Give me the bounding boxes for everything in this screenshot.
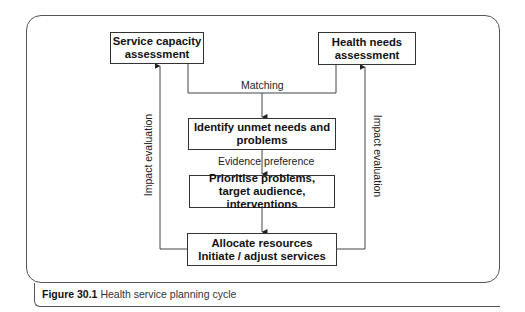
service-capacity-box: Service capacity assessment	[110, 32, 204, 64]
impact-evaluation-left-label: Impact evaluation	[142, 113, 154, 197]
allocate-line2: Initiate / adjust services	[198, 250, 325, 263]
allocate-box: Allocate resources Initiate / adjust ser…	[187, 233, 337, 266]
evidence-preference-label: Evidence preference	[218, 155, 314, 167]
figure-caption: Figure 30.1 Health service planning cycl…	[42, 288, 236, 300]
matching-label: Matching	[241, 79, 284, 91]
prioritise-line2: target audience, interventions	[190, 185, 334, 211]
identify-line1: Identify unmet needs and	[194, 121, 330, 134]
service-capacity-line1: Service capacity	[113, 35, 202, 48]
health-needs-line2: assessment	[335, 49, 400, 62]
service-capacity-line2: assessment	[125, 48, 190, 61]
figure: Service capacity assessment Health needs…	[0, 0, 525, 312]
identify-line2: problems	[237, 134, 288, 147]
health-needs-box: Health needs assessment	[318, 32, 416, 65]
prioritise-box: Prioritise problems, target audience, in…	[189, 175, 335, 208]
identify-box: Identify unmet needs and problems	[188, 118, 336, 150]
impact-evaluation-right-label: Impact evaluation	[372, 114, 384, 198]
allocate-line1: Allocate resources	[211, 237, 312, 250]
figure-number: Figure 30.1	[42, 288, 97, 300]
health-needs-line1: Health needs	[332, 36, 402, 49]
prioritise-line1: Prioritise problems,	[209, 172, 315, 185]
figure-title: Health service planning cycle	[100, 288, 236, 300]
